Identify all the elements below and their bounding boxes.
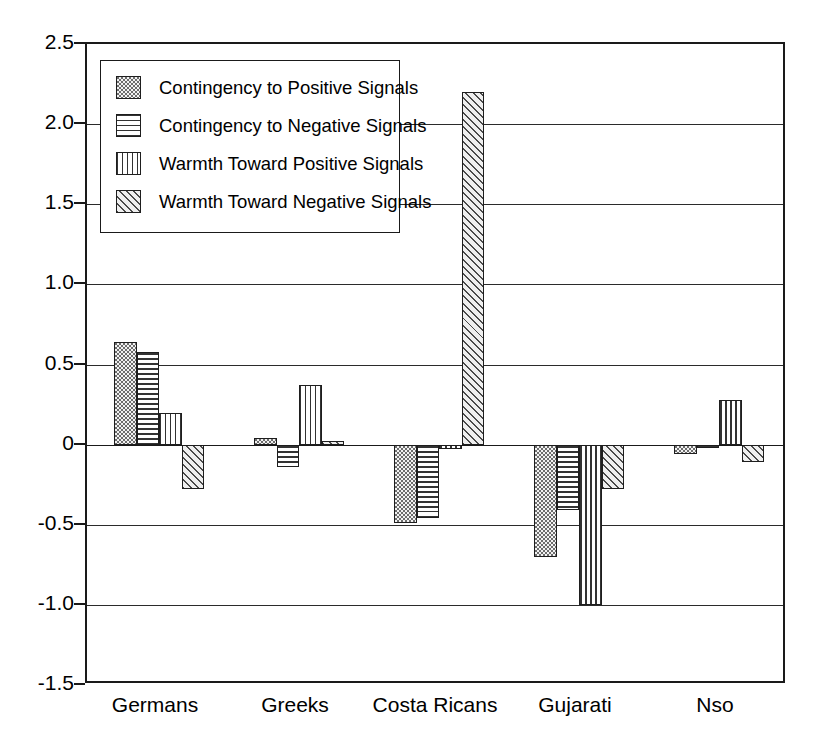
legend-item: Warmth Toward Negative Signals	[116, 188, 431, 214]
bar	[674, 445, 697, 455]
bar	[602, 445, 625, 490]
legend-label: Contingency to Positive Signals	[159, 78, 418, 97]
y-tick-mark	[74, 122, 85, 124]
legend-label: Warmth Toward Positive Signals	[159, 154, 423, 173]
x-tick-label: Costa Ricans	[365, 694, 505, 715]
y-tick-mark	[74, 683, 85, 685]
legend-item: Warmth Toward Positive Signals	[116, 150, 423, 176]
x-tick-label: Germans	[85, 694, 225, 715]
gridline	[87, 605, 783, 606]
legend-swatch-vertical-lines-icon	[116, 152, 141, 175]
gridline	[87, 365, 783, 366]
legend-swatch-diagonal-lines-icon	[116, 190, 141, 213]
y-tick-label: -1.0	[0, 592, 74, 613]
x-tick-label: Gujarati	[505, 694, 645, 715]
bar	[114, 342, 137, 445]
bar	[299, 385, 322, 444]
bar	[322, 441, 345, 444]
y-tick-label: 0.5	[0, 352, 74, 373]
y-tick-mark	[74, 42, 85, 44]
y-tick-label: -1.5	[0, 672, 74, 693]
bar-chart-figure: 2.52.01.51.00.50-0.5-1.0-1.5 GermansGree…	[0, 0, 820, 751]
chart-legend: Contingency to Positive SignalsContingen…	[100, 60, 400, 233]
bar	[462, 92, 485, 445]
y-tick-label: 2.5	[0, 31, 74, 52]
y-tick-label: 1.5	[0, 191, 74, 212]
bar	[182, 445, 205, 490]
y-tick-mark	[74, 523, 85, 525]
y-tick-label: 0	[0, 432, 74, 453]
y-tick-mark	[74, 282, 85, 284]
bar	[394, 445, 417, 524]
legend-swatch-horizontal-lines-icon	[116, 114, 141, 137]
gridline	[87, 525, 783, 526]
legend-swatch-dots-icon	[116, 76, 141, 99]
y-tick-label: 2.0	[0, 111, 74, 132]
bar	[579, 445, 602, 605]
bar	[277, 445, 300, 467]
y-tick-mark	[74, 363, 85, 365]
y-tick-label: -0.5	[0, 512, 74, 533]
bar	[719, 400, 742, 445]
y-tick-mark	[74, 202, 85, 204]
bar	[137, 352, 160, 445]
legend-item: Contingency to Positive Signals	[116, 74, 418, 100]
bar	[534, 445, 557, 557]
bar	[417, 445, 440, 519]
bar	[439, 445, 462, 450]
legend-item: Contingency to Negative Signals	[116, 112, 426, 138]
x-tick-label: Nso	[645, 694, 785, 715]
y-tick-label: 1.0	[0, 271, 74, 292]
legend-label: Warmth Toward Negative Signals	[159, 192, 431, 211]
bar	[254, 438, 277, 444]
y-tick-mark	[74, 443, 85, 445]
bar	[557, 445, 580, 511]
y-tick-mark	[74, 603, 85, 605]
legend-label: Contingency to Negative Signals	[159, 116, 426, 135]
bar	[159, 413, 182, 445]
bar	[742, 445, 765, 463]
x-tick-label: Greeks	[225, 694, 365, 715]
bar	[697, 445, 720, 448]
gridline	[87, 284, 783, 285]
